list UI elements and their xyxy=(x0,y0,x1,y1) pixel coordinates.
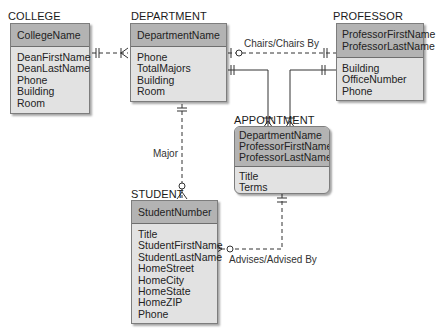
college-primary-key: CollegeName xyxy=(11,24,89,47)
attribute: Phone xyxy=(342,86,418,97)
professor-entity[interactable]: ProfessorFirstName ProfessorLastName Bui… xyxy=(336,23,424,101)
key-attribute: ProfessorFirstName xyxy=(342,28,418,40)
department-entity-title: DEPARTMENT xyxy=(131,10,207,22)
professor-attributes: Building OfficeNumber Phone xyxy=(337,58,423,102)
relationship-label-major: Major xyxy=(153,148,178,159)
relationship-label-advises: Advises/Advised By xyxy=(229,254,317,265)
key-attribute: StudentNumber xyxy=(138,206,211,218)
professor-entity-title: PROFESSOR xyxy=(333,10,403,22)
key-attribute: ProfessorLastName xyxy=(342,40,418,52)
student-entity-title: STUDENT xyxy=(131,188,184,200)
student-primary-key: StudentNumber xyxy=(132,201,217,224)
appointment-entity-title: APPOINTMENT xyxy=(234,114,315,126)
appointment-primary-key: DepartmentName ProfessorFirstName Profes… xyxy=(235,127,329,167)
attribute: Room xyxy=(137,86,220,97)
key-attribute: CollegeName xyxy=(17,29,83,41)
department-attributes: Phone TotalMajors Building Room xyxy=(131,47,226,103)
student-attributes: Title StudentFirstName StudentLastName H… xyxy=(132,224,217,325)
key-attribute: ProfessorLastName xyxy=(239,152,325,163)
attribute: Room xyxy=(17,98,83,109)
college-entity-title: COLLEGE xyxy=(8,10,61,22)
attribute: Terms xyxy=(239,182,325,193)
key-attribute: DepartmentName xyxy=(137,29,220,41)
department-primary-key: DepartmentName xyxy=(131,24,226,47)
relationship-label-chairs: Chairs/Chairs By xyxy=(244,38,319,49)
appointment-entity[interactable]: DepartmentName ProfessorFirstName Profes… xyxy=(234,126,330,194)
college-entity[interactable]: CollegeName DeanFirstName DeanLastName P… xyxy=(10,23,90,114)
department-entity[interactable]: DepartmentName Phone TotalMajors Buildin… xyxy=(130,23,227,102)
attribute: Building xyxy=(17,86,83,97)
student-entity[interactable]: StudentNumber Title StudentFirstName Stu… xyxy=(131,200,218,324)
professor-primary-key: ProfessorFirstName ProfessorLastName xyxy=(337,24,423,58)
college-attributes: DeanFirstName DeanLastName Phone Buildin… xyxy=(11,47,89,114)
attribute: Phone xyxy=(138,309,211,320)
appointment-attributes: Title Terms xyxy=(235,167,329,194)
attribute: HomeStreet xyxy=(138,263,211,274)
